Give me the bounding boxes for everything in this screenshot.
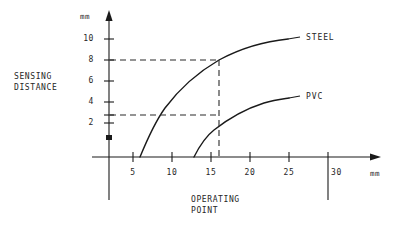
pvc-leader-line [289, 96, 300, 98]
x-axis-title-line2: POINT [191, 205, 218, 216]
x-tick-label-15: 15 [202, 168, 220, 178]
y-axis-title-line1: SENSING [14, 71, 52, 82]
x-tick-label-10: 10 [163, 168, 181, 178]
steel-leader-line [288, 37, 300, 39]
x-tick-label-25: 25 [280, 168, 298, 178]
x-axis-arrowhead [370, 153, 381, 160]
y-tick-label-8: 8 [72, 55, 94, 65]
chart-canvas [0, 0, 403, 227]
x-axis-title-line1: OPERATING [191, 194, 240, 205]
y-axis-arrowhead [105, 10, 112, 21]
y-tick-label-10: 10 [72, 34, 94, 44]
x-tick-label-5: 5 [127, 168, 139, 178]
series-label-steel: STEEL [306, 33, 335, 43]
y-axis-title-line2: DISTANCE [14, 82, 57, 93]
steel-curve [140, 39, 288, 157]
series-label-pvc: PVC [306, 92, 323, 102]
y-axis-origin-marker [106, 135, 112, 140]
pvc-curve [194, 98, 289, 157]
sensing-distance-chart: mm 10 8 6 4 2 SENSING DISTANCE 5 10 15 2… [0, 0, 403, 227]
y-tick-label-2: 2 [72, 118, 94, 128]
y-axis-unit-label: mm [80, 12, 90, 22]
x-axis-unit-label: mm [370, 169, 380, 179]
x-tick-label-20: 20 [241, 168, 259, 178]
y-tick-label-4: 4 [72, 97, 94, 107]
x-tick-label-30: 30 [331, 168, 349, 178]
y-tick-label-6: 6 [72, 76, 94, 86]
